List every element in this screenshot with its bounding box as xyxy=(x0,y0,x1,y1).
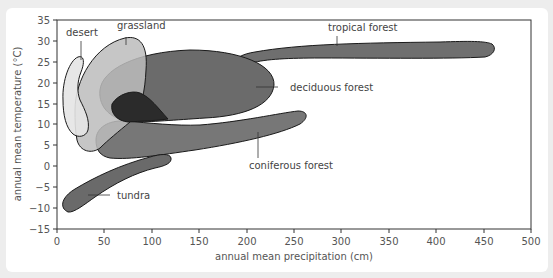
x-tick-50: 50 xyxy=(98,236,111,247)
label-tropical-forest: tropical forest xyxy=(328,22,398,33)
x-tick-0: 0 xyxy=(54,236,60,247)
x-tick-100: 100 xyxy=(142,236,161,247)
x-tick-500: 500 xyxy=(521,236,540,247)
x-tick-150: 150 xyxy=(189,236,208,247)
y-tick-neg15: −15 xyxy=(29,224,50,235)
y-tick-15: 15 xyxy=(37,99,50,110)
biome-chart: desert grassland tropical forest deciduo… xyxy=(0,0,553,278)
region-tropical-forest xyxy=(236,41,494,66)
y-tick-5: 5 xyxy=(44,140,50,151)
x-tick-250: 250 xyxy=(284,236,303,247)
label-desert: desert xyxy=(66,27,98,38)
x-tick-450: 450 xyxy=(474,236,493,247)
y-tick-30: 30 xyxy=(37,36,50,47)
label-tundra: tundra xyxy=(117,190,150,201)
label-deciduous-forest: deciduous forest xyxy=(290,82,373,93)
x-tick-300: 300 xyxy=(331,236,350,247)
x-tick-200: 200 xyxy=(237,236,256,247)
y-tick-25: 25 xyxy=(37,57,50,68)
y-axis-title: annual mean temperature (°C) xyxy=(12,47,23,202)
y-tick-35: 35 xyxy=(37,15,50,26)
label-coniferous-forest: coniferous forest xyxy=(249,160,333,171)
label-grassland: grassland xyxy=(117,20,166,31)
region-tundra xyxy=(63,155,171,213)
x-tick-350: 350 xyxy=(379,236,398,247)
x-axis: 0 50 100 150 200 250 300 350 400 450 500 xyxy=(54,229,541,247)
y-tick-20: 20 xyxy=(37,78,50,89)
y-axis: 35 30 25 20 15 10 5 0 −5 −10 −15 xyxy=(29,15,57,235)
x-tick-400: 400 xyxy=(426,236,445,247)
y-tick-0: 0 xyxy=(44,161,50,172)
x-axis-title: annual mean precipitation (cm) xyxy=(215,251,373,262)
y-tick-neg5: −5 xyxy=(35,182,50,193)
y-tick-10: 10 xyxy=(37,119,50,130)
y-tick-neg10: −10 xyxy=(29,203,50,214)
